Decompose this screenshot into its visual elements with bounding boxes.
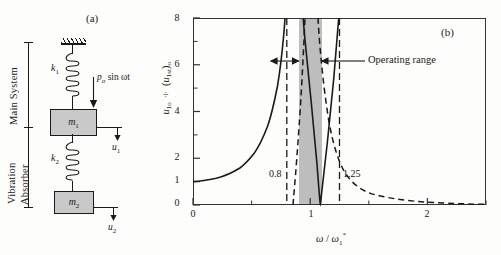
curve-with-absorber-right: [303, 18, 339, 204]
boundary-label-high: 1.25: [343, 168, 361, 179]
spring-k1: [62, 53, 84, 99]
operating-range-arrows: [271, 58, 365, 64]
boundary-label-low: 0.8: [269, 168, 282, 179]
bracket-tick-bottom: [24, 207, 33, 208]
spring-k2: [62, 142, 84, 184]
rod-spring2-to-mass2: [72, 181, 73, 191]
boundary-lines: [287, 18, 340, 205]
panel-a-label: (a): [86, 12, 98, 24]
fixed-support-hatching: [61, 43, 86, 45]
x-axis-label: ω / ω1*: [316, 231, 346, 247]
displacement-u1-label: u1: [112, 142, 120, 155]
operating-range-label: Operating range: [368, 54, 436, 65]
curve-with-absorber: [193, 18, 285, 182]
mass-m2-label: m2: [69, 196, 80, 210]
y-major-ticks: [193, 18, 200, 205]
y-tick-label-2: 2: [170, 151, 184, 162]
x-tick-label-2: 2: [420, 208, 434, 219]
x-tick-label-0: 0: [186, 208, 200, 219]
y-tick-label-0: 0: [170, 197, 184, 208]
y-tick-label-8: 8: [170, 12, 184, 23]
mass-m1-block: m1: [50, 109, 97, 136]
panel-a: (a) Main System Vibration Absorber k1 po…: [0, 0, 501, 2]
spring-k1-label: k1: [51, 62, 59, 76]
bracket-tick-mid: [24, 127, 33, 128]
mass-m2-block: m2: [54, 191, 94, 214]
mass-m1-label: m1: [68, 116, 79, 130]
force-label: po sin ωt: [97, 72, 130, 85]
displacement-u2-label: u2: [108, 222, 116, 235]
figure-root: (a) Main System Vibration Absorber k1 po…: [0, 0, 501, 255]
x-tick-label-1: 1: [304, 208, 318, 219]
plot-curves: [193, 18, 486, 205]
y-tick-label-6: 6: [170, 58, 184, 69]
panel-b-label: (b): [441, 26, 454, 38]
rod-spring1-to-mass1: [72, 96, 73, 109]
displacement-u1-arrow: [113, 128, 122, 142]
y-minor-ticks: [193, 41, 198, 134]
bracket-label-absorber: Absorber: [19, 141, 30, 205]
bracket-tick-top: [24, 42, 33, 43]
y-tick-label-1: 1: [170, 174, 184, 185]
plot-area: 0.8 1.25 Operating range (b): [193, 18, 486, 205]
y-tick-label-4: 4: [170, 105, 184, 116]
x-major-ticks: [193, 198, 427, 205]
bracket-label-main-system: Main System: [8, 45, 19, 125]
bracket-label-vibration: Vibration: [6, 140, 17, 204]
displacement-u2-arrow: [109, 208, 118, 222]
curve-without-absorber-left: [293, 18, 305, 205]
spring-k2-label: k2: [51, 152, 59, 166]
